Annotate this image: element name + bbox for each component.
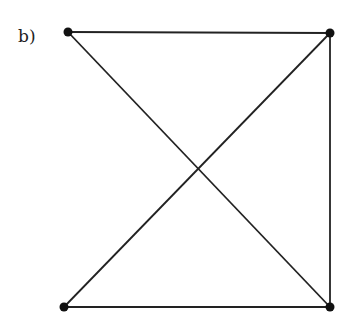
graph-diagram — [0, 0, 356, 327]
node-bottom-right — [326, 303, 335, 312]
node-top-right — [326, 29, 335, 38]
node-top-left — [64, 28, 73, 37]
edge-top-left-top-right — [68, 32, 330, 33]
node-bottom-left — [60, 303, 69, 312]
graph-edges — [64, 32, 330, 307]
